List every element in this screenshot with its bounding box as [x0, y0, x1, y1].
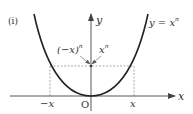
origin-label: O	[81, 99, 89, 110]
power-function-diagram: (i) y y = xn (−x)n xn −x O x x	[0, 0, 193, 114]
curve-label-eq: =	[155, 17, 170, 28]
x-axis-label: x	[178, 90, 185, 103]
pos-value-label: xn	[99, 42, 109, 55]
neg-x-tick-label: −x	[40, 98, 54, 109]
panel-label: (i)	[8, 16, 18, 26]
value-point	[90, 65, 92, 67]
pos-value-label-exp: n	[105, 42, 109, 49]
curve-label: y = xn	[148, 15, 179, 28]
neg-value-label-exp: n	[79, 42, 83, 49]
curve-label-exp: n	[175, 15, 179, 22]
pos-x-tick-label: x	[130, 98, 136, 109]
neg-value-label: (−x)n	[57, 42, 83, 55]
pointer-arrow-neg-value	[80, 56, 90, 64]
pointer-arrow-pos-value	[92, 56, 101, 64]
y-axis-label: y	[95, 14, 103, 27]
neg-value-label-base: (−x)	[57, 44, 79, 55]
